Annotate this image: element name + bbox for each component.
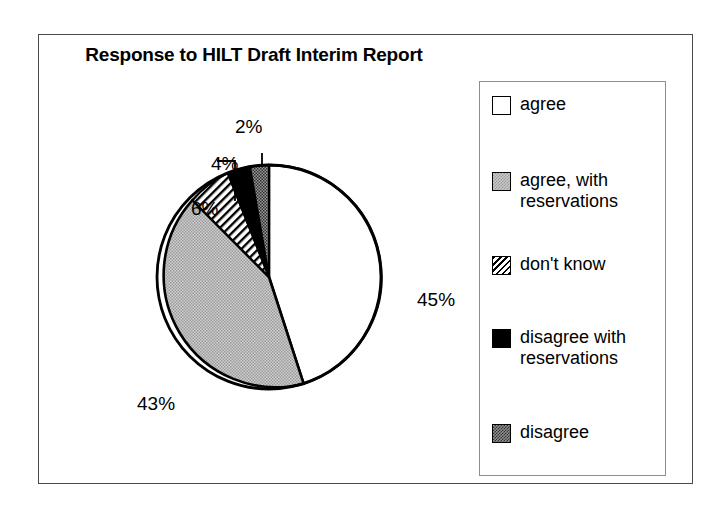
legend-item-agree-with-reservations: agree, with reservations bbox=[492, 170, 665, 212]
dark-gray-dotted-swatch-icon bbox=[492, 424, 511, 443]
light-gray-dotted-swatch-icon bbox=[492, 172, 511, 191]
legend-item-dont-know: don't know bbox=[492, 254, 606, 275]
pie-chart-area: 45% 43% 6% 4% 2% bbox=[39, 35, 479, 485]
legend-item-disagree: disagree bbox=[492, 422, 589, 443]
pie-chart-graphic bbox=[149, 153, 389, 399]
black-swatch-icon bbox=[492, 329, 511, 348]
white-swatch-icon bbox=[492, 96, 511, 115]
chart-frame: Response to HILT Draft Interim Report bbox=[38, 34, 693, 484]
legend-label-agree: agree bbox=[520, 94, 566, 115]
diagonal-hatch-swatch-icon bbox=[492, 256, 511, 275]
chart-legend: agree agree, with reservations don't kno… bbox=[479, 81, 666, 476]
legend-label-disagree-with-reservations: disagree with reservations bbox=[520, 327, 665, 369]
legend-label-disagree: disagree bbox=[520, 422, 589, 443]
legend-item-agree: agree bbox=[492, 94, 566, 115]
slice-label-disagree: 2% bbox=[235, 116, 262, 138]
slice-label-disagree-with-reservations: 4% bbox=[211, 153, 238, 175]
legend-item-disagree-with-reservations: disagree with reservations bbox=[492, 327, 665, 369]
slice-label-agree: 45% bbox=[417, 289, 455, 311]
legend-label-dont-know: don't know bbox=[520, 254, 606, 275]
slice-label-agree-with-reservations: 43% bbox=[137, 393, 175, 415]
slice-label-dont-know: 6% bbox=[191, 198, 218, 220]
legend-label-agree-with-reservations: agree, with reservations bbox=[520, 170, 665, 212]
